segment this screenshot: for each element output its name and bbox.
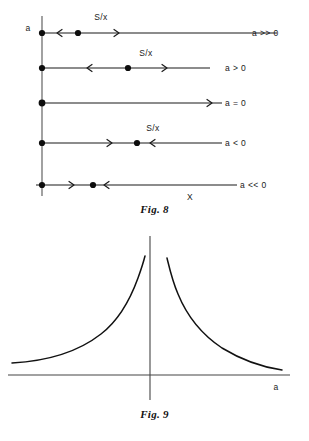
figure-8-row-a-much-less-than-zero: a << 0 xyxy=(36,180,267,190)
figure-8-diagram: a S/x a >> 0 S/x a > 0 xyxy=(0,0,309,205)
figure-8-row-a-greater-than-zero: S/x a > 0 xyxy=(39,48,246,73)
fixed-point-interior xyxy=(134,140,140,146)
figure-9-diagram: a xyxy=(0,222,309,414)
fixed-point-origin xyxy=(39,65,45,71)
condition-label: a = 0 xyxy=(225,98,246,108)
fixed-point-interior xyxy=(125,65,131,71)
flow-label-s-over-x: S/x xyxy=(139,48,153,58)
fixed-point-origin xyxy=(39,182,45,188)
figure-8-row-a-much-greater-than-zero: S/x a >> 0 xyxy=(39,12,279,38)
fixed-point-origin xyxy=(39,100,46,107)
flow-label-s-over-x: S/x xyxy=(94,12,108,22)
condition-label: a >> 0 xyxy=(252,28,279,38)
figure-8-row-a-equals-zero: a = 0 xyxy=(39,98,247,108)
flow-label-s-over-x: S/x xyxy=(146,123,160,133)
condition-label: a << 0 xyxy=(240,180,267,190)
figure-8-row-a-less-than-zero: S/x a < 0 xyxy=(39,123,246,148)
figure-8-vertical-axis-label: a xyxy=(25,23,30,33)
figure-8: a S/x a >> 0 S/x a > 0 xyxy=(0,0,309,222)
fixed-point-interior xyxy=(75,30,81,36)
fixed-point-origin xyxy=(39,30,45,36)
figure-8-caption: Fig. 8 xyxy=(0,203,309,215)
condition-label: a > 0 xyxy=(225,63,246,73)
fixed-point-interior xyxy=(90,182,96,188)
condition-label: a < 0 xyxy=(225,138,246,148)
figure-9-left-branch xyxy=(12,256,145,363)
figure-9: a Fig. 9 xyxy=(0,222,309,441)
figure-9-horizontal-axis-label: a xyxy=(273,382,278,392)
fixed-point-origin xyxy=(39,140,45,146)
figure-9-caption: Fig. 9 xyxy=(0,408,309,420)
figure-9-right-branch xyxy=(167,258,282,370)
figure-8-horizontal-axis-label: X xyxy=(187,192,193,202)
figure-stack: a S/x a >> 0 S/x a > 0 xyxy=(0,0,309,441)
